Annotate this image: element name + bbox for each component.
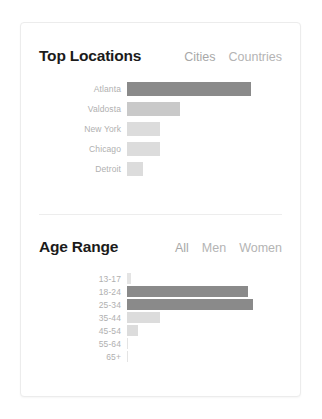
bar-row: Atlanta: [21, 79, 300, 99]
bar-row-label: 55-64: [21, 339, 127, 349]
bar-track: [127, 324, 300, 337]
age-range-chart: 13-1718-2425-3435-4445-5455-6465+: [21, 272, 300, 363]
bar-row: Valdosta: [21, 99, 300, 119]
bar: [127, 286, 248, 297]
bar-track: [127, 79, 300, 99]
bar-row: 45-54: [21, 324, 300, 337]
bar: [127, 312, 160, 323]
bar-track: [127, 285, 300, 298]
bar-row-label: 25-34: [21, 300, 127, 310]
bar-row-label: 18-24: [21, 287, 127, 297]
age-range-header: Age Range All Men Women: [21, 214, 300, 256]
bar-track: [127, 272, 300, 285]
bar-row-label: 45-54: [21, 326, 127, 336]
tab-countries[interactable]: Countries: [229, 50, 283, 64]
bar-row: 65+: [21, 350, 300, 363]
bar: [127, 273, 131, 284]
bar-row-label: 65+: [21, 352, 127, 362]
bar-row-label: Atlanta: [21, 84, 127, 94]
bar-row: New York: [21, 119, 300, 139]
bar: [127, 338, 128, 349]
bar-track: [127, 99, 300, 119]
bar-track: [127, 298, 300, 311]
tab-all[interactable]: All: [175, 241, 189, 255]
bar-row: Chicago: [21, 139, 300, 159]
bar-row-label: Valdosta: [21, 104, 127, 114]
bar: [127, 351, 128, 362]
bar-track: [127, 159, 300, 179]
top-locations-panel: Top Locations Cities Countries AtlantaVa…: [21, 23, 300, 214]
bar-row-label: 35-44: [21, 313, 127, 323]
bar-track: [127, 311, 300, 324]
top-locations-tabs: Cities Countries: [184, 50, 282, 64]
bar-row-label: New York: [21, 124, 127, 134]
bar-row: Detroit: [21, 159, 300, 179]
bar-row: 25-34: [21, 298, 300, 311]
bar-row: 35-44: [21, 311, 300, 324]
bar-row-label: 13-17: [21, 274, 127, 284]
top-locations-header: Top Locations Cities Countries: [21, 23, 300, 65]
tab-women[interactable]: Women: [239, 241, 282, 255]
bar-row: 18-24: [21, 285, 300, 298]
bar: [127, 82, 251, 96]
bar-row: 55-64: [21, 337, 300, 350]
bar: [127, 325, 138, 336]
bar: [127, 102, 180, 116]
bar: [127, 142, 160, 156]
tab-men[interactable]: Men: [202, 241, 226, 255]
page-title-age-range: Age Range: [39, 238, 118, 256]
bar-row-label: Detroit: [21, 164, 127, 174]
tab-cities[interactable]: Cities: [184, 50, 215, 64]
bar-track: [127, 337, 300, 350]
bar-track: [127, 350, 300, 363]
bar-row-label: Chicago: [21, 144, 127, 154]
bar: [127, 122, 160, 136]
top-locations-chart: AtlantaValdostaNew YorkChicagoDetroit: [21, 79, 300, 179]
bar-track: [127, 139, 300, 159]
age-range-panel: Age Range All Men Women 13-1718-2425-343…: [21, 214, 300, 396]
page-title-top-locations: Top Locations: [39, 47, 141, 65]
bar-row: 13-17: [21, 272, 300, 285]
age-range-tabs: All Men Women: [175, 241, 282, 255]
insights-card: Top Locations Cities Countries AtlantaVa…: [20, 22, 301, 397]
bar: [127, 162, 143, 176]
bar-track: [127, 119, 300, 139]
bar: [127, 299, 253, 310]
